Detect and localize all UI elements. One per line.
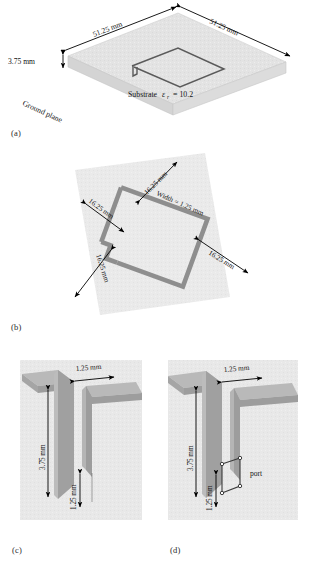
ground-plane-label: Ground plane [21, 99, 64, 125]
panel-d-drawing: port 1.25 mm 3.75 mm 1.25 mm [166, 352, 308, 534]
epsilon-subscript: r [167, 94, 170, 100]
panel-b: 16.25 mm 16.25 mm 16.25 mm 16.25 mm Widt… [0, 145, 314, 320]
substrate-word: Substrate [128, 90, 158, 99]
panel-b-caption: (b) [11, 322, 22, 332]
permittivity-value: = 10.2 [173, 90, 193, 99]
panel-c-caption: (c) [12, 545, 22, 555]
left-vertical-slab [54, 370, 74, 499]
port-label: port [250, 469, 263, 478]
left-vertical-slab-d [202, 371, 222, 498]
panel-a-drawing: 51.25 mm 51.25 mm 3.75 mm Substrate ε r … [0, 0, 314, 145]
dimension-d-stub-label: 1.25 mm [206, 485, 214, 511]
panel-c-drawing: 1.25 mm 3.75 mm 1.25 mm [14, 352, 149, 534]
panel-c: 1.25 mm 3.75 mm 1.25 mm [14, 352, 149, 534]
right-vertical-slab-d [230, 388, 240, 480]
dimension-thickness-label: 3.75 mm [8, 57, 35, 66]
panel-d: port 1.25 mm 3.75 mm 1.25 mm [166, 352, 308, 534]
dimension-d-height-label: 3.75 mm [187, 445, 195, 471]
dimension-c-stub-label: 1.25 mm [70, 484, 78, 510]
panel-a-caption: (a) [11, 128, 21, 138]
figure-root: 51.25 mm 51.25 mm 3.75 mm Substrate ε r … [0, 0, 314, 565]
dimension-c-height-label: 3.75 mm [39, 444, 47, 470]
right-vertical-slab [82, 386, 92, 477]
panel-d-caption: (d) [170, 545, 181, 555]
panel-b-drawing: 16.25 mm 16.25 mm 16.25 mm 16.25 mm Widt… [0, 145, 314, 320]
epsilon-symbol: ε [162, 90, 166, 99]
panel-a: 51.25 mm 51.25 mm 3.75 mm Substrate ε r … [0, 0, 314, 145]
substrate-background [75, 153, 230, 315]
